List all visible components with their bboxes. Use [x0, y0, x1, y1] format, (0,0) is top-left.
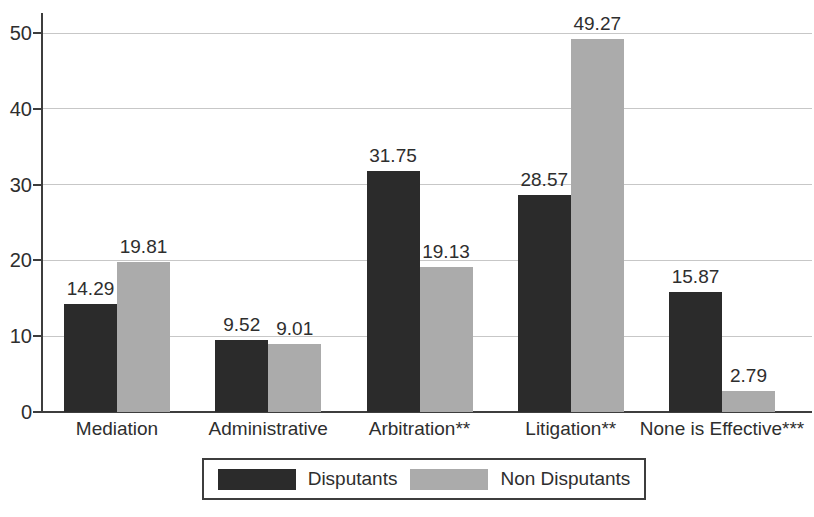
gridline-30: [42, 184, 812, 185]
bar-disputants-mediation: [64, 304, 117, 412]
bar-non-disputants-litigation: [571, 39, 624, 412]
x-axis-label-none-is-effective: None is Effective***: [640, 418, 804, 440]
y-tick-label-50: 50: [0, 21, 32, 45]
bar-non-disputants-mediation: [117, 262, 170, 412]
bar-disputants-none-is-effective: [669, 292, 722, 412]
x-axis-label-mediation: Mediation: [76, 418, 158, 440]
x-axis-label-litigation: Litigation**: [525, 418, 616, 440]
y-tick-label-10: 10: [0, 324, 32, 348]
gridline-50: [42, 33, 812, 34]
legend-swatch-non-disputants: [410, 469, 488, 490]
bar-disputants-arbitration: [367, 171, 420, 412]
legend-label-disputants: Disputants: [308, 468, 398, 490]
value-label-non-disputants-arbitration: 19.13: [422, 241, 470, 263]
legend-swatch-disputants: [218, 469, 296, 490]
y-tick-label-0: 0: [0, 400, 32, 424]
x-axis-label-administrative: Administrative: [209, 418, 328, 440]
value-label-disputants-none-is-effective: 15.87: [672, 266, 720, 288]
y-tick-label-30: 30: [0, 173, 32, 197]
value-label-disputants-administrative: 9.52: [223, 314, 260, 336]
value-label-non-disputants-mediation: 19.81: [120, 236, 168, 258]
value-label-disputants-mediation: 14.29: [67, 278, 115, 300]
value-label-non-disputants-none-is-effective: 2.79: [730, 365, 767, 387]
grouped-bar-chart: 0102030405014.2919.81Mediation9.529.01Ad…: [0, 0, 814, 517]
y-tick-label-20: 20: [0, 248, 32, 272]
legend-item-non-disputants: Non Disputants: [410, 468, 630, 490]
y-axis-line: [41, 13, 43, 413]
value-label-non-disputants-litigation: 49.27: [573, 13, 621, 35]
legend-item-disputants: Disputants: [218, 468, 398, 490]
gridline-40: [42, 108, 812, 109]
bar-non-disputants-administrative: [268, 344, 321, 412]
legend-label-non-disputants: Non Disputants: [500, 468, 630, 490]
bar-disputants-administrative: [215, 340, 268, 412]
chart-legend: Disputants Non Disputants: [202, 458, 646, 500]
bar-non-disputants-arbitration: [420, 267, 473, 412]
y-tick-label-40: 40: [0, 97, 32, 121]
value-label-non-disputants-administrative: 9.01: [276, 318, 313, 340]
value-label-disputants-litigation: 28.57: [520, 169, 568, 191]
value-label-disputants-arbitration: 31.75: [369, 145, 417, 167]
x-axis-label-arbitration: Arbitration**: [369, 418, 470, 440]
bar-disputants-litigation: [518, 195, 571, 412]
bar-non-disputants-none-is-effective: [722, 391, 775, 412]
